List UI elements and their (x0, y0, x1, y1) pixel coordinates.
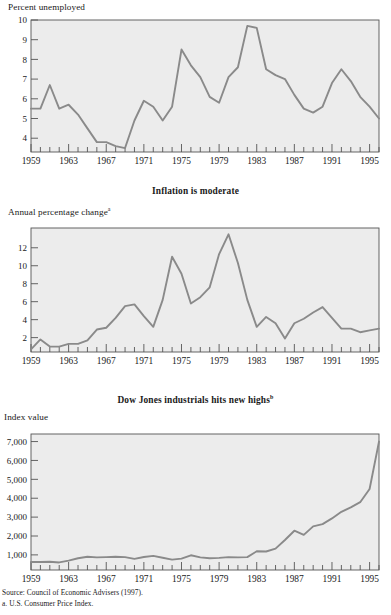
chart-inflation-svg: 2468101219591963196719711975197919831987… (0, 222, 391, 382)
x-tick-label: 1967 (97, 156, 116, 166)
x-tick-label: 1971 (134, 156, 153, 166)
chart-dow-jones-svg: 1,0002,0003,0004,0005,0006,0007,00019591… (0, 428, 391, 590)
chart-unemployment-ylabel: Percent unemployed (8, 2, 85, 12)
y-tick-label: 2,000 (7, 531, 28, 541)
x-tick-label: 1995 (360, 156, 379, 166)
x-tick-label: 1983 (247, 574, 266, 584)
y-tick-label: 4 (23, 315, 28, 325)
source-line: Source: Council of Economic Advisers (19… (2, 588, 143, 597)
x-tick-label: 1983 (247, 156, 266, 166)
x-tick-label: 1967 (97, 356, 116, 366)
chart-inflation-plot: 2468101219591963196719711975197919831987… (0, 222, 391, 382)
chart-dow-jones-ylabel: Index value (4, 412, 48, 422)
footnote-marker-a: a (108, 206, 111, 212)
chart-inflation-ylabel: Annual percentage changea (8, 206, 111, 217)
x-tick-label: 1983 (247, 356, 266, 366)
footnote-a: a. U.S. Consumer Price Index. (2, 599, 93, 608)
x-tick-label: 1979 (210, 356, 229, 366)
y-tick-label: 5,000 (7, 475, 28, 485)
y-tick-label: 9 (23, 35, 28, 45)
y-tick-label: 2 (23, 333, 28, 343)
plot-area (31, 434, 379, 570)
y-tick-label: 5 (23, 114, 28, 124)
chart-dow-jones-title: Dow Jones industrials hits new highsb (0, 394, 391, 405)
x-tick-label: 1959 (22, 156, 41, 166)
x-tick-label: 1975 (172, 356, 191, 366)
x-tick-label: 1979 (210, 156, 229, 166)
x-tick-label: 1967 (97, 574, 116, 584)
x-tick-label: 1995 (360, 574, 379, 584)
x-tick-label: 1991 (323, 574, 342, 584)
y-tick-label: 6,000 (7, 456, 28, 466)
x-tick-label: 1975 (172, 156, 191, 166)
x-tick-label: 1971 (134, 356, 153, 366)
x-tick-label: 1991 (323, 156, 342, 166)
chart-inflation-title: Inflation is moderate (0, 186, 391, 196)
x-tick-label: 1963 (59, 156, 78, 166)
y-tick-label: 6 (23, 297, 28, 307)
y-tick-label: 10 (18, 15, 28, 25)
x-tick-label: 1979 (210, 574, 229, 584)
y-tick-label: 10 (18, 261, 28, 271)
x-tick-label: 1963 (59, 356, 78, 366)
y-tick-label: 8 (23, 279, 28, 289)
y-tick-label: 8 (23, 55, 28, 65)
y-tick-label: 4 (23, 133, 28, 143)
x-tick-label: 1975 (172, 574, 191, 584)
x-tick-label: 1959 (22, 356, 41, 366)
x-tick-label: 1971 (134, 574, 153, 584)
x-tick-label: 1987 (285, 356, 304, 366)
x-tick-label: 1963 (59, 574, 78, 584)
y-tick-label: 6 (23, 94, 28, 104)
y-tick-label: 7 (23, 74, 28, 84)
x-tick-label: 1991 (323, 356, 342, 366)
x-tick-label: 1987 (285, 156, 304, 166)
x-tick-label: 1987 (285, 574, 304, 584)
chart-unemployment-plot: 4567891019591963196719711975197919831987… (0, 14, 391, 174)
y-tick-label: 12 (18, 243, 27, 253)
footnote-marker-b: b (270, 394, 274, 400)
y-tick-label: 4,000 (7, 493, 28, 503)
y-tick-label: 7,000 (7, 437, 28, 447)
x-tick-label: 1959 (22, 574, 41, 584)
x-tick-label: 1995 (360, 356, 379, 366)
chart-dow-jones-plot: 1,0002,0003,0004,0005,0006,0007,00019591… (0, 428, 391, 590)
y-tick-label: 3,000 (7, 512, 28, 522)
chart-unemployment-svg: 4567891019591963196719711975197919831987… (0, 14, 391, 174)
y-tick-label: 1,000 (7, 550, 28, 560)
plot-area (31, 228, 379, 352)
